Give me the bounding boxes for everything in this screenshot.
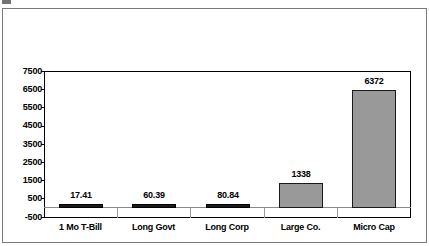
y-tick-label: 3500 — [0, 140, 42, 149]
y-tick-mark — [41, 198, 45, 199]
y-axis: 7500 6500 5500 4500 3500 2500 1500 500 -… — [0, 0, 42, 246]
y-tick-mark — [41, 126, 45, 127]
y-tick-mark — [41, 162, 45, 163]
y-tick-label: 5500 — [0, 103, 42, 112]
bar-chart: 7500 6500 5500 4500 3500 2500 1500 500 -… — [0, 0, 429, 246]
bar-value-label: 17.41 — [59, 191, 103, 200]
y-tick-label: 7500 — [0, 67, 42, 76]
x-category-label: Large Co. — [264, 222, 337, 232]
x-category-label: Long Govt — [117, 222, 190, 232]
y-tick-label: -500 — [0, 213, 42, 222]
x-category-label: Micro Cap — [337, 222, 411, 232]
bar[interactable] — [206, 204, 250, 208]
bar[interactable] — [352, 90, 396, 208]
bar-value-label: 1338 — [279, 170, 323, 179]
y-tick-mark — [41, 107, 45, 108]
x-category-label: Long Corp — [190, 222, 264, 232]
y-tick-label: 4500 — [0, 121, 42, 130]
bar-value-label: 6372 — [352, 77, 396, 86]
x-category-label: 1 Mo T-Bill — [44, 222, 117, 232]
y-tick-label: 1500 — [0, 176, 42, 185]
bar[interactable] — [59, 204, 103, 208]
bar[interactable] — [279, 183, 323, 208]
bar-value-label: 80.84 — [206, 191, 250, 200]
y-tick-label: 6500 — [0, 85, 42, 94]
y-tick-mark — [41, 217, 45, 218]
bar-value-label: 60.39 — [132, 191, 176, 200]
y-tick-mark — [41, 144, 45, 145]
y-tick-mark — [41, 89, 45, 90]
y-tick-mark — [41, 71, 45, 72]
y-tick-mark — [41, 180, 45, 181]
y-tick-label: 500 — [0, 194, 42, 203]
bar[interactable] — [132, 204, 176, 208]
y-tick-label: 2500 — [0, 158, 42, 167]
screenshot-root: 7500 6500 5500 4500 3500 2500 1500 500 -… — [0, 0, 429, 246]
